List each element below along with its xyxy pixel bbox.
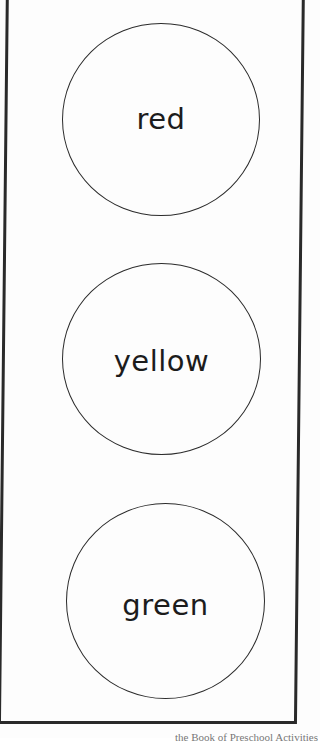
footer-credit: the Book of Preschool Activities	[0, 730, 318, 744]
circle-label-green: green	[122, 591, 208, 620]
circle-label-red: red	[136, 105, 185, 134]
circle-green: green	[66, 503, 265, 699]
circle-red: red	[62, 23, 260, 216]
circle-label-yellow: yellow	[114, 347, 210, 376]
circle-yellow: yellow	[62, 263, 261, 455]
